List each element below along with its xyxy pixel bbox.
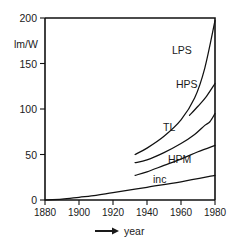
x-tick-label: 1880 (34, 207, 57, 218)
y-tick-label: 0 (31, 194, 37, 206)
x-tick-label: 1900 (68, 207, 91, 218)
right-arrow-head-icon (112, 228, 119, 235)
series-label-hps: HPS (176, 78, 198, 90)
x-axis-tick-labels: 1880 1900 1920 1940 1960 1980 (34, 207, 227, 218)
series-label-hpm: HPM (168, 153, 191, 165)
series-label-tl: TL (163, 121, 175, 133)
x-axis-title: year (124, 225, 145, 237)
x-tick-label: 1960 (170, 207, 193, 218)
y-tick-label: 100 (19, 103, 37, 115)
x-tick-label: 1980 (204, 207, 227, 218)
series-label-inc: inc (153, 173, 166, 185)
efficacy-line-chart: 200 150 100 50 0 lm/W 1880 1900 1920 194… (0, 0, 239, 243)
x-axis-title-group: year (95, 225, 145, 237)
y-tick-label: 50 (25, 149, 37, 161)
series-label-lps: LPS (172, 44, 192, 56)
y-tick-label: 200 (19, 12, 37, 24)
y-axis-unit-label: lm/W (14, 38, 38, 50)
x-tick-label: 1940 (136, 207, 159, 218)
chart-svg: 200 150 100 50 0 lm/W 1880 1900 1920 194… (0, 0, 239, 243)
y-tick-label: 150 (19, 58, 37, 70)
series-line-inc (45, 175, 215, 200)
x-tick-label: 1920 (102, 207, 125, 218)
